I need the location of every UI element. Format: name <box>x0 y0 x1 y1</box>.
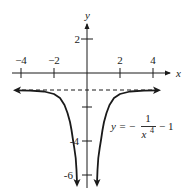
x-tick-label: 4 <box>150 54 156 66</box>
y-tick-label: -6 <box>64 169 74 181</box>
equation-numerator: 1 <box>145 112 151 124</box>
curve-right-branch <box>97 90 158 183</box>
equation-tail: − 1 <box>159 120 173 132</box>
equation-denominator: x <box>141 128 147 140</box>
function-graph: −4 −2 2 4 2 -4 -6 x y y = − 1 x 4 − 1 <box>0 0 188 192</box>
svg-text:y = −: y = − <box>110 120 136 132</box>
x-tick-label: 2 <box>117 54 123 66</box>
x-tick-label: −2 <box>48 54 60 66</box>
x-tick-label: −4 <box>15 54 27 66</box>
y-tick-label: 2 <box>75 33 81 45</box>
y-axis-label: y <box>84 9 90 21</box>
equation-label: y = − 1 x 4 − 1 <box>110 112 173 140</box>
equation-exponent: 4 <box>150 126 154 135</box>
x-axis-label: x <box>175 67 181 79</box>
